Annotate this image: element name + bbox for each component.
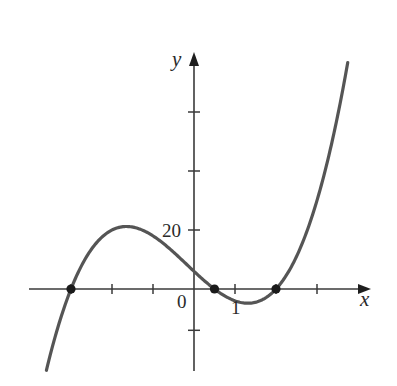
y-axis-label: y <box>170 47 182 71</box>
root-point-marker <box>210 284 219 293</box>
y-axis-arrow-icon <box>189 52 199 66</box>
x-axis <box>29 284 371 294</box>
root-point-marker <box>66 284 75 293</box>
function-curve <box>46 63 347 371</box>
y-axis <box>188 52 200 371</box>
x-axis-label: x <box>359 287 370 311</box>
x-tick-label-1: 1 <box>231 297 241 318</box>
origin-label: 0 <box>177 291 187 312</box>
y-tick-label-20: 20 <box>162 220 181 241</box>
root-point-marker <box>271 284 280 293</box>
cubic-function-graph: y x 0 1 20 <box>0 0 397 386</box>
